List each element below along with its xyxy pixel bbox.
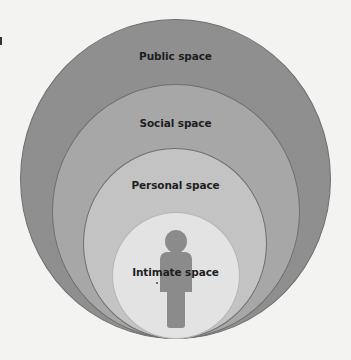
page-edge-mark bbox=[0, 37, 2, 45]
public-space-label: Public space bbox=[0, 50, 351, 62]
person-head bbox=[165, 230, 187, 253]
person-legs bbox=[167, 290, 185, 328]
social-space-label: Social space bbox=[0, 117, 351, 129]
personal-space-label: Personal space bbox=[0, 179, 351, 191]
stray-dot bbox=[156, 282, 158, 284]
intimate-space-label: Intimate space bbox=[0, 266, 351, 278]
